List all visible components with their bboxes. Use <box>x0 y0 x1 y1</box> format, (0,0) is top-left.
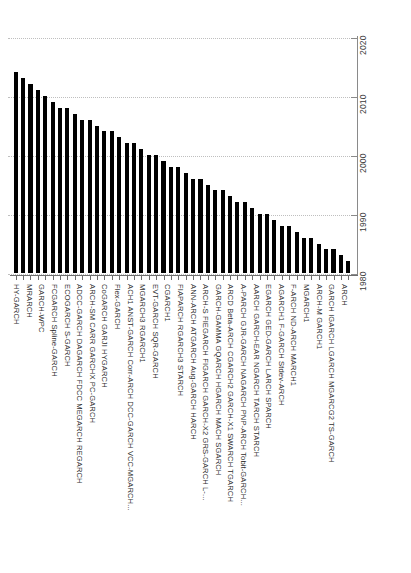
category-label: ECOGARCH S-GARCH <box>63 284 72 367</box>
bar <box>80 120 84 273</box>
category-label: ARCH-SM CARR GARCHX PC-GARCH <box>88 284 97 423</box>
category-tick <box>223 275 224 280</box>
category-label: FIAPARCH RGARCH3 STARCH <box>176 284 185 396</box>
category-tick <box>178 275 179 280</box>
bar <box>302 238 306 273</box>
category-tick <box>193 275 194 280</box>
category-tick <box>149 275 150 280</box>
bar-series <box>12 38 352 274</box>
value-tick <box>351 156 358 157</box>
bar <box>250 208 254 273</box>
value-tick <box>351 274 358 275</box>
category-label: ARCH-S FIEGARCH FIGARCH GARCH-X2 GRS-GAR… <box>201 284 210 501</box>
bar <box>184 173 188 273</box>
category-label: GARCH-WPC <box>37 284 46 333</box>
category-tick <box>97 275 98 280</box>
bar <box>117 137 121 273</box>
bar <box>95 126 99 274</box>
bar <box>36 90 40 273</box>
bar <box>221 190 225 273</box>
category-tick <box>53 275 54 280</box>
category-tick <box>134 275 135 280</box>
category-tick <box>38 275 39 280</box>
category-label: EGARCH GED-GARCH LARCH SPARCH <box>264 284 273 429</box>
value-tick-label: 2020 <box>358 35 368 55</box>
category-label: EVT-GARCH SQR-GARCH <box>151 284 160 379</box>
category-tick <box>267 275 268 280</box>
category-label: ARCD Beta-ARCH CGARCH2 GARCH-X1 SWARCH T… <box>226 284 235 502</box>
category-tick <box>30 275 31 280</box>
category-label: CGARCH1 <box>163 284 172 322</box>
bar <box>51 102 55 273</box>
category-tick <box>75 275 76 280</box>
bar <box>339 255 343 273</box>
category-tick <box>186 275 187 280</box>
category-tick <box>104 275 105 280</box>
bar <box>132 143 136 273</box>
value-tick-label: 2010 <box>358 94 368 114</box>
bar <box>324 249 328 273</box>
category-tick <box>289 275 290 280</box>
bar <box>14 72 18 273</box>
category-tick <box>141 275 142 280</box>
category-tick <box>67 275 68 280</box>
category-label: A-PARCH GJR-GARCH NAGARCH PNP-ARCH Tobit… <box>239 284 248 506</box>
plot-area: 19801990200020102020 <box>0 0 411 300</box>
bar <box>139 149 143 273</box>
category-label: ADCC-GARCH DAGARCH FDCC MEGARCH REGARCH <box>75 284 84 484</box>
bar <box>102 131 106 273</box>
category-tick <box>282 275 283 280</box>
category-label: Flex-GARCH <box>113 284 122 329</box>
category-label: HY-GARCH <box>12 284 21 325</box>
bar <box>258 214 262 273</box>
bar <box>21 78 25 273</box>
category-tick <box>245 275 246 280</box>
category-tick <box>16 275 17 280</box>
bar <box>176 167 180 273</box>
category-label: CoGARCH GARJI HYGARCH <box>100 284 109 388</box>
bar <box>198 179 202 273</box>
bar <box>265 214 269 273</box>
category-label: MGARCH3 RGARCH1 <box>138 284 147 363</box>
bar <box>346 261 350 273</box>
category-tick <box>341 275 342 280</box>
bar <box>228 196 232 273</box>
category-tick <box>230 275 231 280</box>
category-label: MGARCH1 <box>302 284 311 323</box>
category-tick <box>297 275 298 280</box>
category-axis-labels: HY-GARCHMRARCHGARCH-WPCFCGARCH Spline-GA… <box>0 282 411 573</box>
category-label: AGARCH1 F-GARCH Stdev-ARCH <box>277 284 286 406</box>
bar <box>280 226 284 273</box>
category-tick <box>274 275 275 280</box>
bar <box>309 238 313 273</box>
bar <box>73 114 77 273</box>
bar <box>287 226 291 273</box>
bar <box>154 155 158 273</box>
category-label: FCGARCH Spline-GARCH <box>50 284 59 377</box>
category-label: ARCH-M GARCH1 <box>315 284 324 349</box>
category-label: F-ARCH ND-ARCH MARCH1 <box>289 284 298 386</box>
category-tick <box>82 275 83 280</box>
category-tick <box>164 275 165 280</box>
bar <box>65 108 69 273</box>
category-tick <box>23 275 24 280</box>
bar <box>272 220 276 273</box>
bar <box>110 131 114 273</box>
category-tick <box>260 275 261 280</box>
value-tick-label: 1990 <box>358 212 368 232</box>
bar <box>295 232 299 273</box>
category-tick <box>60 275 61 280</box>
value-tick <box>351 215 358 216</box>
category-tick <box>319 275 320 280</box>
category-label: GARCH IGARCH LGARCH MGARCG2 TS-GARCH <box>327 284 336 463</box>
category-tick <box>208 275 209 280</box>
value-tick-label: 2000 <box>358 153 368 173</box>
bar <box>317 244 321 274</box>
bar <box>88 120 92 273</box>
bar <box>125 143 129 273</box>
category-tick <box>112 275 113 280</box>
category-tick <box>45 275 46 280</box>
category-tick <box>304 275 305 280</box>
category-label: AARCH GARCH-EAR NGARCH TARCH STARCH <box>252 284 261 457</box>
bar <box>58 108 62 273</box>
